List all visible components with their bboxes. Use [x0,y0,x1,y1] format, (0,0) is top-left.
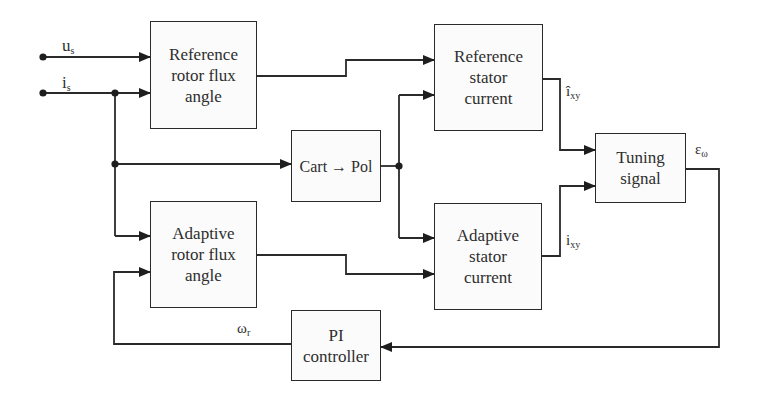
block-reference-rotor-flux-angle: Reference rotor flux angle [150,21,257,129]
block-diagram: Reference rotor flux angle Reference sta… [0,0,758,404]
label-ixy: ixy [566,233,580,252]
label-eps-omega: εω [695,142,708,161]
label-is: is [62,75,71,95]
is-junction-1 [111,89,118,96]
block-label: PI controller [303,325,369,367]
us-terminal [39,53,46,60]
ref-rotor-to-ref-stator-line [257,60,434,76]
block-adaptive-rotor-flux-angle: Adaptive rotor flux angle [150,201,257,308]
block-label: Reference rotor flux angle [169,44,238,107]
block-label: Adaptive stator current [457,225,519,288]
label-ixy-hat: îxy [566,84,580,103]
label-omega-r: ωr [237,321,250,340]
cartpol-junction [395,162,402,169]
block-label: Cart → Pol [300,156,373,177]
symbol: u [62,36,71,55]
subscript: r [247,327,250,338]
block-pi-controller: PI controller [291,310,381,381]
is-terminal [39,89,46,96]
subscript: ω [701,148,708,159]
subscript: xy [570,90,580,101]
block-label: Adaptive rotor flux angle [171,223,236,286]
block-label: Tuning signal [616,147,665,189]
block-reference-stator-current: Reference stator current [434,24,543,131]
adapt-rotor-to-adapt-stator-line [257,255,434,274]
block-cart-to-pol: Cart → Pol [291,130,381,202]
symbol: ω [237,320,247,336]
block-adaptive-stator-current: Adaptive stator current [434,203,542,310]
label-us: us [62,38,74,58]
block-tuning-signal: Tuning signal [595,133,686,203]
block-label: Reference stator current [454,46,523,109]
subscript: s [71,45,75,56]
subscript: xy [570,239,580,250]
is-junction-2 [111,160,118,167]
subscript: s [67,82,71,93]
